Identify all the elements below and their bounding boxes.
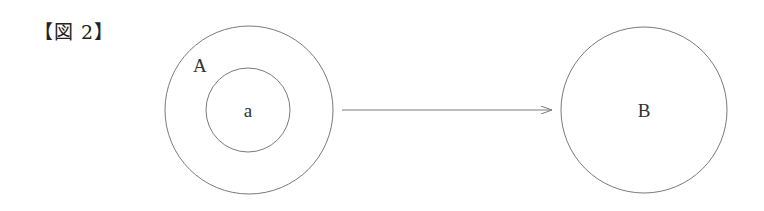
set-b-group: B <box>561 27 727 193</box>
set-mapping-diagram: A a B <box>0 0 764 211</box>
set-b-label: B <box>638 100 651 121</box>
subset-a-group: a <box>206 68 290 152</box>
subset-a-label: a <box>244 100 253 121</box>
set-a-label: A <box>193 55 207 76</box>
